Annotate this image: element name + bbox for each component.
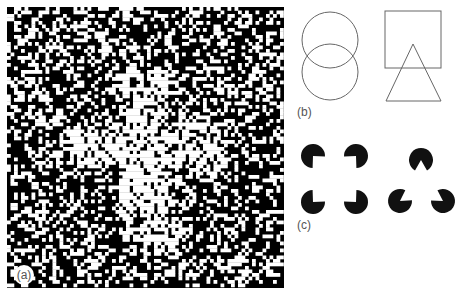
noise-cell (224, 217, 235, 221)
noise-cell (189, 259, 193, 263)
noise-cell (116, 280, 120, 284)
noise-cell (91, 200, 95, 204)
noise-cell (81, 116, 85, 120)
noise-cell (224, 144, 228, 148)
noise-cell (144, 165, 155, 169)
noise-cell (60, 217, 64, 221)
noise-cell (39, 32, 43, 36)
noise-cell (217, 256, 221, 260)
noise-cell (207, 53, 211, 57)
noise-cell (189, 203, 193, 207)
noise-cell (182, 200, 186, 204)
noise-cell (154, 228, 168, 232)
noise-cell (151, 112, 169, 116)
noise-cell (270, 175, 284, 179)
noise-cell (263, 154, 270, 158)
noise-cell (245, 116, 256, 120)
noise-cell (214, 140, 218, 144)
noise-cell (39, 137, 43, 141)
noise-cell (70, 242, 74, 246)
noise-cell (186, 249, 190, 253)
noise-cell (42, 228, 49, 232)
noise-cell (25, 238, 29, 242)
noise-cell (116, 217, 120, 221)
noise-cell (277, 74, 281, 78)
noise-cell (21, 210, 32, 214)
noise-cell (116, 158, 127, 162)
noise-cell (42, 273, 46, 277)
noise-cell (126, 109, 140, 113)
noise-cell (245, 21, 252, 25)
noise-cell (266, 112, 270, 116)
noise-cell (112, 84, 130, 88)
noise-cell (63, 252, 67, 256)
noise-cell (46, 109, 53, 113)
noise-cell (144, 25, 148, 29)
noise-cell (245, 266, 249, 270)
panel-a-label: (a) (17, 268, 32, 282)
noise-cell (32, 60, 36, 64)
noise-cell (77, 200, 81, 204)
noise-cell (252, 67, 259, 71)
noise-cell (7, 77, 11, 81)
noise-cell (119, 109, 123, 113)
noise-cell (88, 28, 95, 32)
noise-cell (28, 245, 32, 249)
noise-cell (46, 42, 50, 46)
noise-cell (7, 144, 11, 148)
noise-cell (186, 147, 193, 151)
noise-cell (179, 116, 186, 120)
noise-cell (235, 95, 239, 99)
noise-cell (144, 252, 151, 256)
noise-cell (193, 256, 197, 260)
noise-cell (175, 84, 179, 88)
noise-cell (179, 266, 186, 270)
noise-cell (249, 249, 253, 253)
noise-cell (140, 214, 151, 218)
noise-cell (228, 95, 232, 99)
noise-cell (42, 182, 49, 186)
noise-cell (186, 102, 193, 106)
noise-cell (196, 175, 200, 179)
noise-cell (67, 133, 81, 137)
noise-cell (214, 280, 218, 284)
noise-cell (154, 11, 158, 15)
noise-cell (133, 105, 144, 109)
noise-cell (203, 147, 224, 151)
noise-cell (53, 263, 57, 267)
noise-cell (168, 203, 175, 207)
noise-cell (161, 245, 165, 249)
noise-cell (95, 21, 99, 25)
noise-cell (144, 193, 155, 197)
noise-cell (130, 210, 134, 214)
noise-cell (217, 35, 221, 39)
noise-cell (14, 137, 21, 141)
noise-cell (168, 249, 179, 253)
noise-cell (18, 224, 29, 228)
noise-cell (74, 7, 78, 11)
noise-cell (256, 228, 260, 232)
noise-cell (25, 35, 36, 39)
noise-cell (172, 123, 211, 127)
noise-cell (249, 277, 253, 281)
noise-cell (42, 252, 46, 256)
noise-cell (77, 249, 84, 253)
noise-cell (154, 252, 161, 256)
noise-cell (168, 144, 172, 148)
noise-cell (74, 11, 88, 15)
noise-cell (182, 137, 189, 141)
noise-cell (217, 154, 224, 158)
noise-cell (165, 140, 186, 144)
noise-cell (109, 116, 113, 120)
noise-cell (46, 56, 50, 60)
noise-cell (147, 70, 168, 74)
noise-cell (196, 60, 203, 64)
noise-cell (77, 67, 84, 71)
noise-cell (67, 161, 74, 165)
noise-cell (263, 98, 270, 102)
noise-cell (277, 235, 281, 239)
noise-cell (39, 14, 43, 18)
noise-cell (46, 91, 50, 95)
noise-cell (42, 238, 46, 242)
noise-cell (88, 53, 92, 57)
